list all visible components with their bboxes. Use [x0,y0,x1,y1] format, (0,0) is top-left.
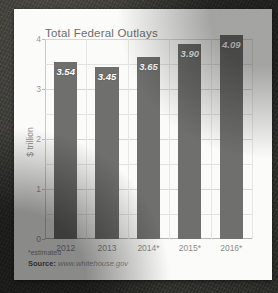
y-axis-tick-label: 2 [29,134,41,144]
bar-slot: 3.452013 [86,39,127,239]
bar[interactable] [95,67,118,240]
bar[interactable] [220,35,243,240]
chart-plot-wrapper: $ trillion 01234 3.5420123.4520133.65201… [14,9,272,280]
source-line: Source: www.whitehouse.gov [28,259,128,268]
x-axis-tick-label: 2016* [220,243,242,253]
bar-value-label: 3.90 [181,48,200,59]
source-label: Source: [28,259,56,268]
chart-card: Total Federal Outlays $ trillion 01234 3… [14,9,272,280]
bar-value-label: 3.65 [139,61,158,72]
y-axis-tick-label: 0 [29,234,41,244]
bar-value-label: 3.54 [56,66,75,77]
bar-slot: 3.542012 [45,39,86,239]
bar-series: 3.5420123.4520133.652014*3.902015*4.0920… [45,39,252,239]
source-url: www.whitehouse.gov [58,259,128,268]
y-axis-tick-label: 3 [29,84,41,94]
plot-area: 01234 3.5420123.4520133.652014*3.902015*… [45,39,252,239]
x-axis-tick-label: 2013 [98,243,117,253]
bar[interactable] [54,62,77,239]
photo-background: Total Federal Outlays $ trillion 01234 3… [0,0,278,293]
y-axis-tick-label: 4 [29,34,41,44]
y-axis-tick-label: 1 [29,184,41,194]
bar-value-label: 3.45 [98,71,117,82]
gridline-vertical [252,39,253,239]
bar-value-label: 4.09 [222,39,241,50]
bar[interactable] [178,44,201,239]
bar-slot: 4.092016* [211,39,252,239]
bar-slot: 3.902015* [169,39,210,239]
x-axis-tick-label: 2015* [179,243,201,253]
bar-slot: 3.652014* [128,39,169,239]
footnote-estimated: *estimated [28,249,61,256]
y-axis-tick-mark [42,239,45,240]
x-axis-tick-label: 2014* [137,243,159,253]
bar[interactable] [137,57,160,240]
